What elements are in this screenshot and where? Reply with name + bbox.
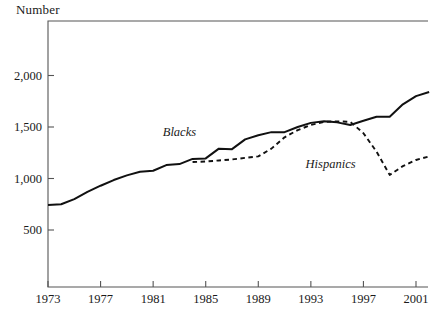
chart-figure: Number 5001,0001,5002,000197319771981198… <box>0 0 442 315</box>
x-axis-label: 1985 <box>193 292 218 307</box>
series-annotation-blacks: Blacks <box>163 125 196 140</box>
x-axis-label: 1981 <box>141 292 166 307</box>
y-axis-label: 1,000 <box>0 171 42 186</box>
x-axis-label: 2001 <box>404 292 429 307</box>
y-axis-label: 1,500 <box>0 120 42 135</box>
chart-plot-area <box>0 0 442 315</box>
x-axis-label: 1973 <box>36 292 61 307</box>
x-axis-label: 1997 <box>351 292 376 307</box>
y-axis-label: 2,000 <box>0 68 42 83</box>
x-axis-label: 1993 <box>298 292 323 307</box>
series-line-blacks <box>48 92 429 205</box>
series-annotation-hispanics: Hispanics <box>306 156 356 171</box>
x-axis-label: 1989 <box>246 292 271 307</box>
axis-frame <box>48 21 428 287</box>
x-axis-label: 1977 <box>88 292 113 307</box>
y-axis-label: 500 <box>0 223 42 238</box>
